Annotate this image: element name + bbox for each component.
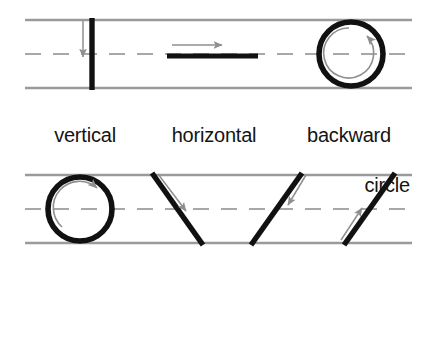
forward-circle-stroke: [48, 177, 112, 241]
label-horizontal-line1: horizontal: [146, 123, 282, 148]
slant-left-stroke: [251, 173, 302, 245]
stroke-glyphs-bottom: [0, 155, 447, 345]
slant-up-stroke: [344, 173, 395, 245]
label-backward-line1: backward: [282, 123, 416, 148]
stroke-panel-top: vertical horizontal backward circle: [0, 0, 447, 160]
clockwise-arrow: [53, 181, 97, 227]
stroke-panel-bottom: forward circle slant right slant left sl…: [0, 155, 447, 345]
slant-right-stroke: [152, 173, 203, 245]
counter-clockwise-arrow: [324, 28, 374, 78]
label-vertical-line1: vertical: [24, 123, 146, 148]
stroke-direction-chart: vertical horizontal backward circle: [0, 0, 447, 345]
